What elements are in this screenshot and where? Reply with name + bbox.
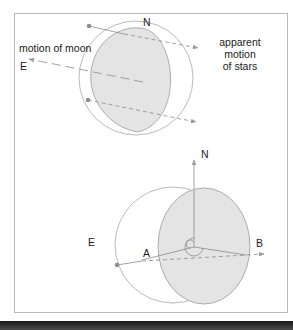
bottom-north-label: N	[201, 148, 209, 160]
point-b-label: B	[256, 237, 263, 249]
star-dot-bottom	[115, 263, 120, 268]
bottom-dark-bar	[0, 321, 293, 330]
apparent-motion-label: apparent motion of stars	[206, 36, 274, 72]
star-dot-lower	[86, 98, 91, 103]
point-a-label: A	[143, 247, 150, 259]
bottom-star-track-solid	[117, 261, 142, 265]
top-moon-figure	[29, 21, 198, 135]
star-dot-upper	[87, 24, 92, 29]
top-north-label: N	[143, 16, 151, 28]
top-shaded-disk	[91, 28, 171, 132]
motion-of-moon-label: motion of moon	[19, 42, 91, 54]
top-star-track-upper-solid	[89, 26, 124, 34]
bottom-moon-figure	[115, 160, 264, 304]
bottom-shaded-disk	[158, 188, 250, 304]
top-east-label: E	[20, 60, 27, 72]
bottom-east-label: E	[88, 236, 95, 248]
